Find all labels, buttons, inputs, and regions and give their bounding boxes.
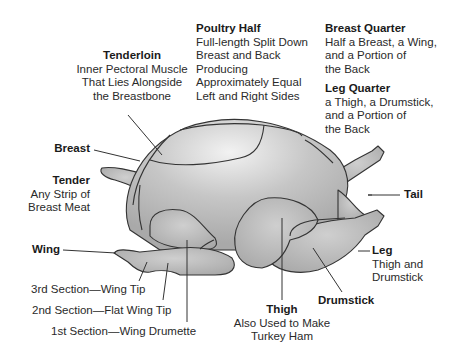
label-thigh: Thigh Also Used to Make Turkey Ham <box>222 303 342 344</box>
breast-quarter-title: Breast Quarter <box>325 22 452 36</box>
label-breast-quarter: Breast Quarter Half a Breast, a Wing, an… <box>325 22 452 76</box>
tenderloin-line: That Lies Alongside <box>62 76 202 90</box>
label-wing: Wing <box>20 243 60 257</box>
leg-line: Drumstick <box>372 271 423 285</box>
leader-tenderloin <box>128 115 162 155</box>
tenderloin-line: Inner Pectoral Muscle <box>62 63 202 77</box>
tail-title: Tail <box>404 188 423 202</box>
label-wing-2nd-section: 2nd Section—Flat Wing Tip <box>32 304 171 318</box>
leg-quarter-line: the Back <box>325 123 452 137</box>
label-poultry-half: Poultry Half Full-length Split Down Brea… <box>196 22 326 103</box>
breast-quarter-line: the Back <box>325 63 452 77</box>
leader-wing <box>63 250 116 253</box>
leg-title: Leg <box>372 244 423 258</box>
label-wing-1st-section: 1st Section—Wing Drumette <box>51 325 196 339</box>
leg-quarter-line: a Thigh, a Drumstick, <box>325 96 452 110</box>
leg-quarter-title: Leg Quarter <box>325 82 452 96</box>
poultry-half-line: Approximately Equal <box>196 76 326 90</box>
label-leg-quarter: Leg Quarter a Thigh, a Drumstick, and a … <box>325 82 452 136</box>
label-leg: Leg Thigh and Drumstick <box>372 244 423 285</box>
label-tail: Tail <box>404 188 423 202</box>
thigh-line: Also Used to Make <box>222 317 342 331</box>
poultry-half-line: Breast and Back <box>196 49 326 63</box>
tender-line: Breast Meat <box>10 201 90 215</box>
poultry-half-title: Poultry Half <box>196 22 326 36</box>
breast-quarter-line: and a Portion of <box>325 49 452 63</box>
label-tender: Tender Any Strip of Breast Meat <box>10 174 90 215</box>
leg-line: Thigh and <box>372 258 423 272</box>
wing-title: Wing <box>20 243 60 257</box>
thigh-line: Turkey Ham <box>222 330 342 344</box>
leader-breast <box>94 150 140 161</box>
label-wing-3rd-section: 3rd Section—Wing Tip <box>31 283 145 297</box>
tenderloin-line: the Breastbone <box>62 90 202 104</box>
thigh-title: Thigh <box>222 303 342 317</box>
label-tenderloin: Tenderloin Inner Pectoral Muscle That Li… <box>62 49 202 103</box>
breast-title: Breast <box>20 142 90 156</box>
wing-tip <box>114 247 234 275</box>
poultry-half-line: Full-length Split Down <box>196 36 326 50</box>
tender-title: Tender <box>10 174 90 188</box>
poultry-half-line: Left and Right Sides <box>196 90 326 104</box>
poultry-half-line: Producing <box>196 63 326 77</box>
breast-quarter-line: Half a Breast, a Wing, <box>325 36 452 50</box>
label-breast: Breast <box>20 142 90 156</box>
tender-line: Any Strip of <box>10 188 90 202</box>
tenderloin-title: Tenderloin <box>62 49 202 63</box>
leg-quarter-line: and a Portion of <box>325 109 452 123</box>
